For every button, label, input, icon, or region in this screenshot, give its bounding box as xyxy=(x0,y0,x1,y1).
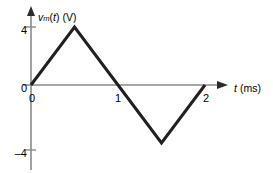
x-tick-label-2: 2 xyxy=(200,88,212,106)
y-axis-title-unit: (V) xyxy=(59,11,76,23)
y-axis-title: vm(t)(V) xyxy=(38,7,76,25)
x-axis-group xyxy=(23,81,228,89)
x-axis-arrowhead xyxy=(217,81,228,89)
y-tick-label-0: 0 xyxy=(11,78,27,96)
waveform-figure: 4 0 –4 0 1 2 vm(t)(V) t(ms) xyxy=(0,0,273,173)
y-tick-label-neg4: –4 xyxy=(7,143,27,161)
x-tick-label-1: 1 xyxy=(112,88,124,106)
x-tick-label-0: 0 xyxy=(26,88,38,106)
y-tick-label-4: 4 xyxy=(13,20,27,38)
x-axis-title-unit: (ms) xyxy=(237,82,261,94)
y-axis-arrowhead xyxy=(27,6,35,16)
x-axis-title: t(ms) xyxy=(234,78,261,96)
plot-canvas xyxy=(0,0,273,173)
